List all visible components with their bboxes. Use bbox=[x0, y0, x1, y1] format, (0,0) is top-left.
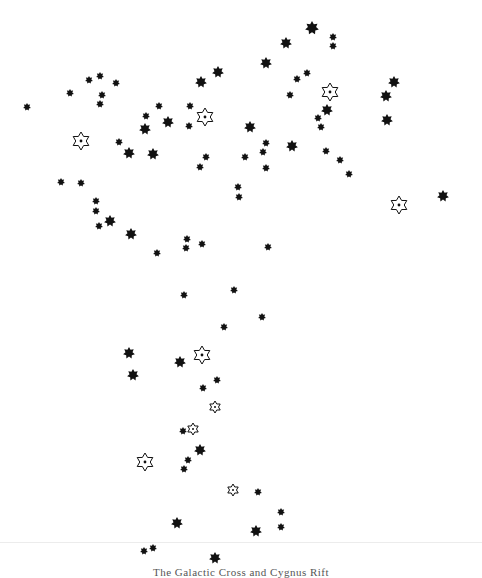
star-icon bbox=[155, 102, 163, 110]
star-icon bbox=[286, 91, 294, 99]
page-seam-line bbox=[0, 542, 482, 543]
star-icon bbox=[381, 114, 393, 125]
marked-star-icon bbox=[322, 83, 338, 101]
star-icon bbox=[213, 376, 221, 384]
star-icon bbox=[277, 508, 285, 516]
star-icon bbox=[303, 69, 311, 77]
star-icon bbox=[220, 323, 228, 331]
star-icon bbox=[293, 75, 301, 83]
star-icon bbox=[98, 91, 106, 99]
star-icon bbox=[336, 156, 344, 164]
star-icon bbox=[329, 33, 337, 41]
star-icon bbox=[179, 427, 187, 435]
star-icon bbox=[234, 183, 242, 191]
star-icon bbox=[139, 123, 151, 134]
star-icon bbox=[184, 456, 192, 464]
star-icon bbox=[186, 102, 194, 110]
star-icon bbox=[258, 313, 266, 321]
star-icon bbox=[77, 179, 85, 187]
star-icon bbox=[112, 79, 120, 87]
star-icon bbox=[277, 523, 285, 531]
star-icon bbox=[104, 215, 116, 226]
marked-star-icon bbox=[210, 401, 220, 413]
marked-star-icon bbox=[391, 196, 407, 214]
star-icon bbox=[260, 57, 272, 68]
star-icon bbox=[235, 193, 243, 201]
star-icon bbox=[262, 164, 270, 172]
marked-star-icon bbox=[228, 484, 238, 496]
star-icon bbox=[115, 138, 123, 146]
star-icon bbox=[250, 525, 262, 536]
star-icon bbox=[171, 517, 183, 528]
star-icon bbox=[85, 76, 93, 84]
star-icon bbox=[174, 356, 186, 367]
star-icon bbox=[198, 240, 206, 248]
star-icon bbox=[127, 369, 139, 380]
star-icon bbox=[199, 384, 207, 392]
star-icon bbox=[317, 123, 325, 131]
figure-caption: The Galactic Cross and Cygnus Rift bbox=[0, 566, 482, 578]
star-icon bbox=[305, 21, 319, 34]
star-icon bbox=[149, 544, 157, 552]
star-icon bbox=[209, 552, 221, 563]
marked-star-icon bbox=[137, 453, 153, 471]
star-icon bbox=[180, 465, 188, 473]
star-icon bbox=[262, 139, 270, 147]
star-icon bbox=[57, 178, 65, 186]
star-icon bbox=[314, 114, 322, 122]
star-icon bbox=[254, 488, 262, 496]
star-icon bbox=[437, 190, 449, 201]
star-icon bbox=[95, 222, 103, 230]
star-icon bbox=[96, 72, 104, 80]
star-icon bbox=[345, 170, 353, 178]
star-icon bbox=[162, 116, 174, 127]
marked-star-icon bbox=[73, 132, 89, 150]
star-icon bbox=[321, 104, 333, 115]
star-icon bbox=[194, 444, 206, 455]
star-icon bbox=[264, 243, 272, 251]
star-icon bbox=[23, 103, 31, 111]
star-icon bbox=[241, 153, 249, 161]
star-icon bbox=[280, 37, 292, 48]
star-icon bbox=[182, 244, 190, 252]
star-icon bbox=[66, 89, 74, 97]
marked-star-icon bbox=[197, 108, 213, 126]
star-icon bbox=[123, 347, 135, 358]
star-icon bbox=[180, 291, 188, 299]
marked-star-icon bbox=[194, 346, 210, 364]
star-icon bbox=[196, 163, 204, 171]
star-icon bbox=[322, 147, 330, 155]
star-icon bbox=[230, 286, 238, 294]
star-icon bbox=[388, 76, 400, 87]
star-icon bbox=[244, 121, 256, 132]
star-icon bbox=[329, 42, 337, 50]
star-icon bbox=[147, 148, 159, 159]
star-icon bbox=[96, 100, 104, 108]
star-icon bbox=[195, 76, 207, 87]
star-icon bbox=[185, 122, 193, 130]
star-icon bbox=[183, 235, 191, 243]
star-icon bbox=[286, 140, 298, 151]
star-icon bbox=[153, 249, 161, 257]
star-icon bbox=[202, 153, 210, 161]
star-icon bbox=[92, 197, 100, 205]
star-icon bbox=[380, 90, 392, 101]
star-icon bbox=[142, 112, 150, 120]
star-icon bbox=[125, 228, 137, 239]
marked-star-icon bbox=[188, 423, 198, 435]
star-icon bbox=[92, 207, 100, 215]
star-icon bbox=[123, 147, 135, 158]
star-icon bbox=[212, 66, 224, 77]
star-icon bbox=[140, 547, 148, 555]
star-icon bbox=[259, 148, 267, 156]
